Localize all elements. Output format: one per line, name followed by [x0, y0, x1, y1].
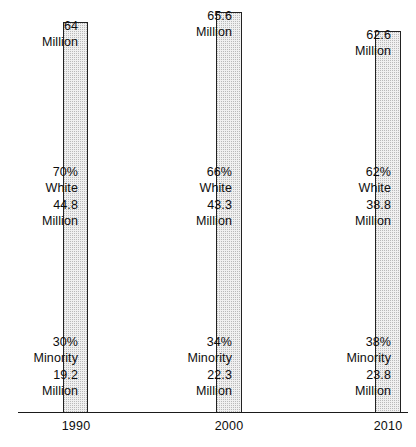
x-tick-2010: 2010 [364, 418, 412, 434]
white-value-2010: 38.8 [355, 197, 391, 213]
plot-area: 64 Million 70% White 44.8 Million 30% Mi… [0, 0, 416, 447]
minority-unit-1990: Million [33, 383, 78, 399]
total-label-2010: 62.6 Million [355, 27, 391, 60]
white-value-1990: 44.8 [42, 197, 78, 213]
minority-label-2000: 34% Minority 22.3 Million [187, 334, 232, 400]
minority-value-1990: 19.2 [33, 367, 78, 383]
population-bar-chart: 64 Million 70% White 44.8 Million 30% Mi… [0, 0, 416, 447]
white-group-1990: White [42, 180, 78, 196]
white-percent-2010: 62% [355, 164, 391, 180]
white-label-1990: 70% White 44.8 Million [42, 164, 78, 230]
minority-group-2000: Minority [187, 350, 232, 366]
white-unit-1990: Million [42, 213, 78, 229]
total-value-1990: 64 [42, 18, 78, 34]
total-value-2000: 65.6 [196, 8, 232, 24]
minority-group-2010: Minority [346, 350, 391, 366]
white-group-2010: White [355, 180, 391, 196]
white-group-2000: White [196, 180, 232, 196]
minority-percent-2010: 38% [346, 334, 391, 350]
white-label-2000: 66% White 43.3 Million [196, 164, 232, 230]
white-unit-2000: Million [196, 213, 232, 229]
minority-group-1990: Minority [33, 350, 78, 366]
white-label-2010: 62% White 38.8 Million [355, 164, 391, 230]
white-value-2000: 43.3 [196, 197, 232, 213]
minority-unit-2000: Million [187, 383, 232, 399]
white-unit-2010: Million [355, 213, 391, 229]
x-axis-line [18, 412, 408, 413]
minority-percent-1990: 30% [33, 334, 78, 350]
minority-value-2010: 23.8 [346, 367, 391, 383]
minority-percent-2000: 34% [187, 334, 232, 350]
total-unit-2010: Million [355, 43, 391, 59]
total-label-2000: 65.6 Million [196, 8, 232, 41]
x-tick-1990: 1990 [52, 418, 100, 434]
minority-label-2010: 38% Minority 23.8 Million [346, 334, 391, 400]
minority-value-2000: 22.3 [187, 367, 232, 383]
total-value-2010: 62.6 [355, 27, 391, 43]
total-unit-1990: Million [42, 34, 78, 50]
minority-label-1990: 30% Minority 19.2 Million [33, 334, 78, 400]
minority-unit-2010: Million [346, 383, 391, 399]
total-label-1990: 64 Million [42, 18, 78, 51]
white-percent-2000: 66% [196, 164, 232, 180]
x-tick-2000: 2000 [205, 418, 253, 434]
total-unit-2000: Million [196, 24, 232, 40]
white-percent-1990: 70% [42, 164, 78, 180]
